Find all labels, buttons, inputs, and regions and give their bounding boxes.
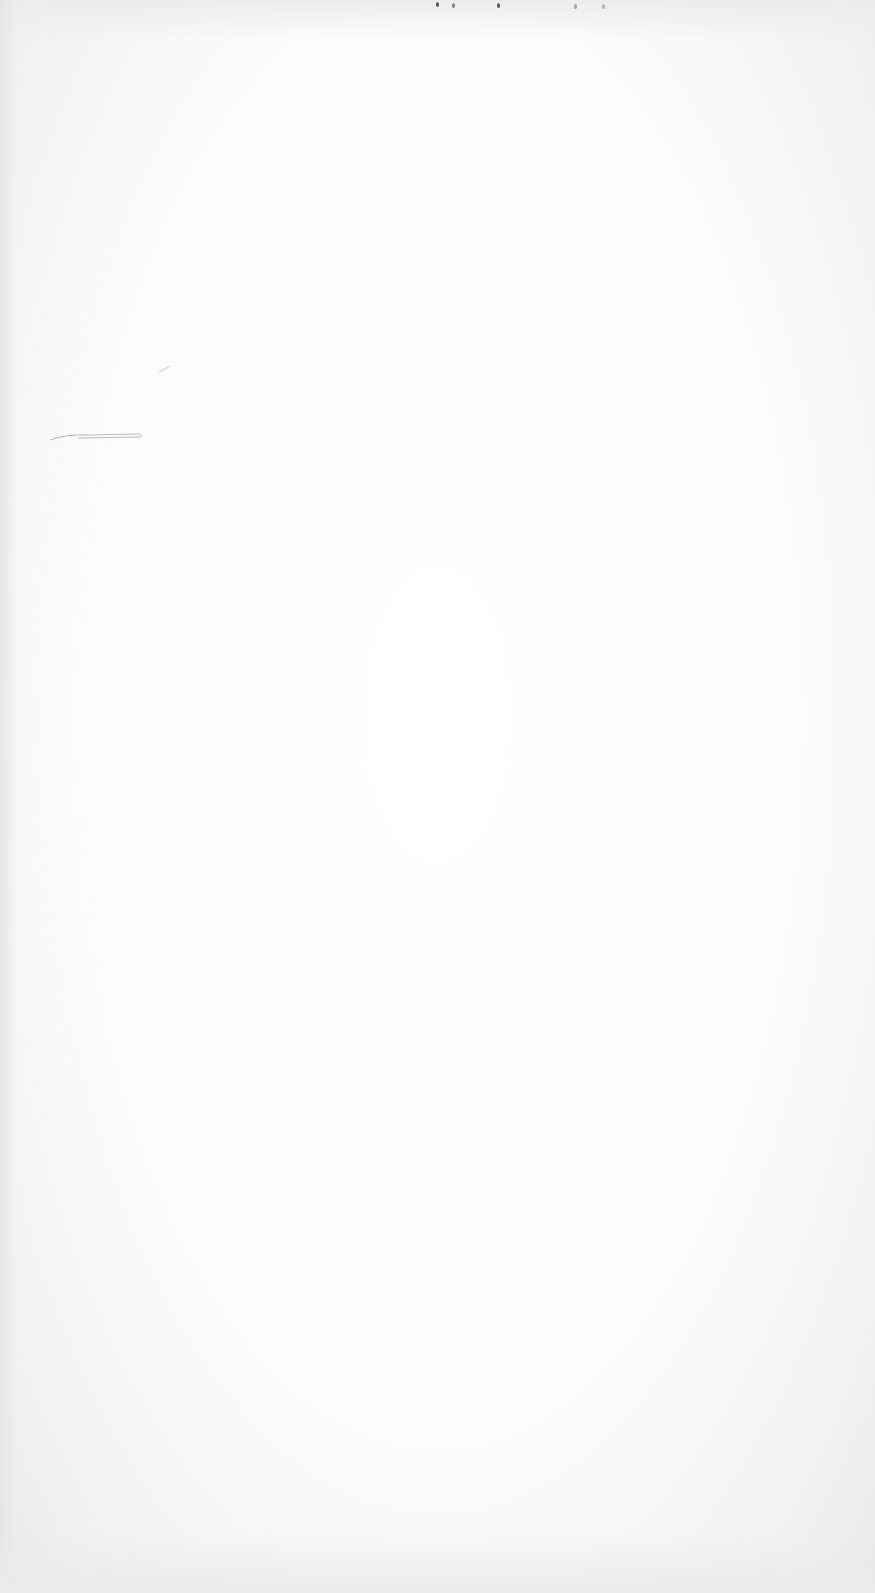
pen-tick-mark <box>158 365 172 373</box>
scan-speck <box>497 3 500 8</box>
page-left-shading <box>0 0 18 1593</box>
scan-speck <box>602 4 605 9</box>
scanned-page <box>0 0 875 1593</box>
scan-speck <box>574 4 577 9</box>
scan-speck <box>452 3 455 8</box>
pen-stroke-mark <box>48 430 144 442</box>
scan-speck <box>436 2 439 7</box>
page-bottom-shading <box>0 1533 875 1593</box>
